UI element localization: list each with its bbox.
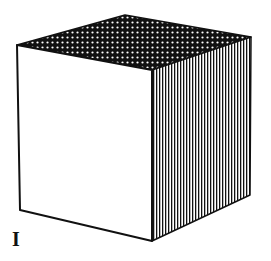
cube-right-face: [152, 37, 251, 241]
cube-front-face: [17, 45, 152, 241]
figure-label: I: [12, 229, 20, 249]
cube-diagram: [0, 0, 271, 261]
